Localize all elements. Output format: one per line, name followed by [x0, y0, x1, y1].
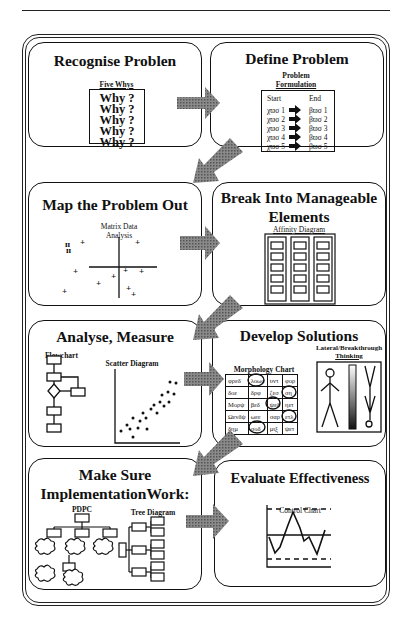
flow-arrows — [0, 0, 410, 622]
arrow-right-icon — [184, 362, 224, 396]
arrow-right-icon — [177, 87, 220, 119]
arrow-right-icon — [180, 226, 220, 260]
arrow-right-icon — [186, 504, 229, 539]
arrow-down-left-icon — [193, 138, 243, 183]
arrow-down-left-icon — [193, 430, 243, 476]
arrow-down-left-icon — [193, 295, 243, 340]
